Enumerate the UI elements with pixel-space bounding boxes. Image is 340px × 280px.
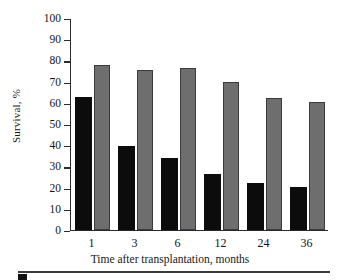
caption-marker (18, 274, 27, 280)
bar-group (200, 19, 243, 230)
y-axis-tick-mark (64, 83, 70, 84)
y-axis-tick-label: 80 (50, 53, 62, 68)
y-axis-tick-label: 50 (50, 117, 62, 132)
x-axis-title: Time after transplantation, months (0, 253, 340, 265)
bar-series-gray-6 (180, 68, 197, 230)
bar-series-gray-12 (223, 82, 240, 230)
bar-series-gray-36 (309, 102, 326, 230)
y-axis-tick-mark (64, 19, 70, 20)
x-axis-tick-label: 3 (113, 236, 156, 251)
y-axis-title-text: Survival, % (10, 89, 22, 143)
figure: Survival, % 0102030405060708090100 13612… (0, 0, 340, 280)
y-axis-tick-mark (64, 210, 70, 211)
bar-series-dark-36 (290, 187, 307, 230)
y-axis-tick-mark (64, 104, 70, 105)
bar-series-dark-12 (204, 174, 221, 230)
y-axis-tick-mark (64, 61, 70, 62)
x-axis-tick-label: 24 (242, 236, 285, 251)
y-axis-tick-label: 0 (55, 223, 61, 238)
y-axis-tick-label: 40 (50, 138, 62, 153)
y-axis-tick-label: 30 (50, 159, 62, 174)
y-axis-tick-label: 20 (50, 181, 62, 196)
plot-area: 0102030405060708090100 (70, 19, 328, 231)
y-axis-tick-label: 70 (50, 75, 62, 90)
bar-series-container (71, 19, 328, 230)
bar-group (114, 19, 157, 230)
x-axis-tick-label: 1 (70, 236, 113, 251)
bar-group (286, 19, 329, 230)
y-axis-tick-mark (64, 125, 70, 126)
y-axis-tick-label: 10 (50, 202, 62, 217)
y-axis-tick-label: 60 (50, 96, 62, 111)
bar-group (243, 19, 286, 230)
bar-group (157, 19, 200, 230)
y-axis-tick-mark (64, 146, 70, 147)
y-axis-tick-mark (64, 189, 70, 190)
x-axis-tick-label: 12 (199, 236, 242, 251)
y-axis-tick-mark (64, 167, 70, 168)
bar-series-gray-24 (266, 98, 283, 230)
y-axis-tick-mark (64, 40, 70, 41)
y-axis-tick-mark (64, 231, 70, 232)
caption-divider (18, 271, 330, 273)
bar-series-gray-3 (137, 70, 154, 230)
bar-series-dark-24 (247, 183, 264, 230)
y-axis-tick-label: 100 (44, 11, 61, 26)
x-axis-tick-label: 36 (285, 236, 328, 251)
y-axis-tick-label: 90 (50, 32, 62, 47)
bar-series-gray-1 (94, 65, 111, 230)
bar-series-dark-1 (75, 97, 92, 230)
bar-series-dark-6 (161, 158, 178, 230)
bar-series-dark-3 (118, 146, 135, 230)
x-axis-tick-label: 6 (156, 236, 199, 251)
bar-group (71, 19, 114, 230)
y-axis-title: Survival, % (8, 0, 24, 232)
